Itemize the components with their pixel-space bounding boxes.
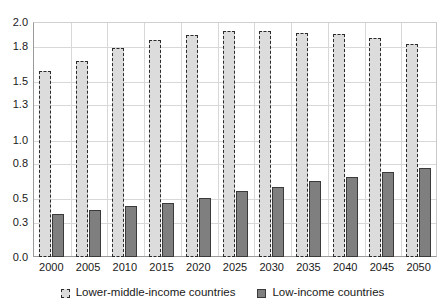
- bar-lower-middle-income: [333, 34, 345, 257]
- x-axis-tick-label: 2020: [186, 262, 210, 273]
- y-axis-tick-label: 1.8: [13, 40, 28, 51]
- y-axis-tick-label: 1.0: [13, 134, 28, 145]
- bar-low-income: [125, 206, 137, 257]
- chart-legend: Lower-middle-income countriesLow-income …: [0, 282, 445, 304]
- bars-layer: [33, 22, 437, 257]
- bar-lower-middle-income: [296, 33, 308, 257]
- y-axis-tick-label: 0.3: [13, 216, 28, 227]
- legend-label: Lower-middle-income countries: [76, 287, 236, 299]
- y-axis-tick-label: 1.3: [13, 99, 28, 110]
- bar-lower-middle-income: [149, 40, 161, 257]
- bar-lower-middle-income: [259, 31, 271, 257]
- bar-low-income: [382, 172, 394, 257]
- bar-lower-middle-income: [406, 44, 418, 257]
- bar-low-income: [309, 181, 321, 257]
- legend-swatch-icon: [257, 289, 266, 298]
- legend-entry[interactable]: Lower-middle-income countries: [61, 287, 236, 299]
- bar-lower-middle-income: [223, 31, 235, 257]
- bar-lower-middle-income: [76, 61, 88, 257]
- bar-chart: 0.00.30.50.81.01.31.51.82.0 200020052010…: [0, 0, 445, 306]
- bar-low-income: [272, 187, 284, 258]
- y-axis-tick-label: 1.5: [13, 75, 28, 86]
- x-axis-tick-label: 2010: [113, 262, 137, 273]
- bar-lower-middle-income: [39, 71, 51, 257]
- bar-low-income: [346, 177, 358, 257]
- x-axis-tick-label: 2035: [296, 262, 320, 273]
- x-axis: 2000200520102015202020252030203520402045…: [33, 259, 437, 279]
- legend-label: Low-income countries: [272, 287, 384, 299]
- legend-swatch-icon: [61, 289, 70, 298]
- y-axis-tick-label: 0.8: [13, 158, 28, 169]
- legend-entry[interactable]: Low-income countries: [257, 287, 384, 299]
- bar-low-income: [236, 191, 248, 257]
- x-axis-tick-label: 2030: [259, 262, 283, 273]
- x-axis-tick-label: 2045: [370, 262, 394, 273]
- x-axis-tick-label: 2025: [223, 262, 247, 273]
- y-axis-tick-label: 2.0: [13, 17, 28, 28]
- bar-low-income: [199, 198, 211, 257]
- x-axis-tick-label: 2040: [333, 262, 357, 273]
- x-axis-tick-label: 2000: [39, 262, 63, 273]
- bar-low-income: [419, 168, 431, 257]
- bar-low-income: [89, 210, 101, 257]
- bar-low-income: [162, 203, 174, 257]
- y-axis-tick-label: 0.5: [13, 193, 28, 204]
- x-axis-tick-label: 2015: [149, 262, 173, 273]
- bar-lower-middle-income: [369, 38, 381, 257]
- y-axis: 0.00.30.50.81.01.31.51.82.0: [0, 0, 33, 280]
- x-axis-tick-label: 2005: [76, 262, 100, 273]
- x-axis-tick-label: 2050: [406, 262, 430, 273]
- bar-low-income: [52, 214, 64, 257]
- bar-lower-middle-income: [112, 48, 124, 257]
- bar-lower-middle-income: [186, 35, 198, 257]
- y-axis-tick-label: 0.0: [13, 252, 28, 263]
